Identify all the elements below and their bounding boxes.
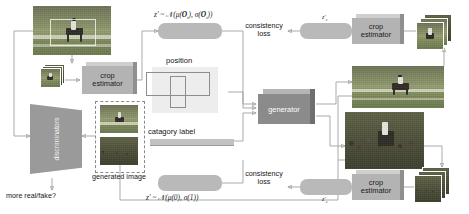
generated-image-top <box>100 105 138 133</box>
generator-label: generator <box>258 94 310 124</box>
consistency-loss-top: consistency loss <box>238 22 290 39</box>
consistency-loss-bottom: consistency loss <box>238 170 290 187</box>
real-crops-stack <box>40 64 64 86</box>
crop-estimator-bottom-right[interactable]: crop estimator <box>352 174 400 200</box>
generated-crops-stack-bottom <box>414 167 448 201</box>
latent-top-formula: z′ ~ 𝒩(μ(Ot), σ(Ot)) <box>154 10 212 20</box>
z-label-top-right: z′c <box>322 14 327 22</box>
generated-image-caption: generated image <box>92 173 146 181</box>
latent-bottom-pill <box>158 175 222 191</box>
real-image <box>33 6 111 55</box>
crop-estimator-left[interactable]: crop estimator <box>82 66 133 94</box>
discriminators-label: discriminators <box>53 117 60 160</box>
category-label-text: catagory label <box>148 128 195 137</box>
category-label-bar <box>150 139 234 146</box>
crop-estimator-left-label: crop estimator <box>92 72 122 89</box>
crop-estimator-bottom-right-label: crop estimator <box>361 179 391 196</box>
crop-bbox-overlay <box>50 19 96 46</box>
generated-output-top <box>352 66 444 108</box>
crop-estimator-top-right-label: crop estimator <box>361 23 391 40</box>
position-label: position <box>166 57 192 66</box>
latent-top-pill <box>158 23 222 39</box>
latent-bottom-formula: z′ ~ 𝒩(μ(0), σ(1)) <box>146 193 198 202</box>
diagram-canvas: crop estimator discriminators more real/… <box>0 0 469 214</box>
z-label-bottom-right: z′c <box>322 196 327 204</box>
position-rect-tall <box>170 76 186 108</box>
discriminators[interactable]: discriminators <box>30 104 82 174</box>
generated-crops-stack-top <box>416 14 450 48</box>
generated-output-bottom <box>345 112 424 169</box>
generated-image-bottom <box>100 137 138 165</box>
latent-top-right-pill <box>300 23 352 39</box>
more-real-fake-label: more real/fake? <box>6 192 56 200</box>
latent-bottom-right-pill <box>300 179 352 195</box>
generator[interactable]: generator <box>258 94 310 124</box>
crop-estimator-top-right[interactable]: crop estimator <box>352 18 400 44</box>
